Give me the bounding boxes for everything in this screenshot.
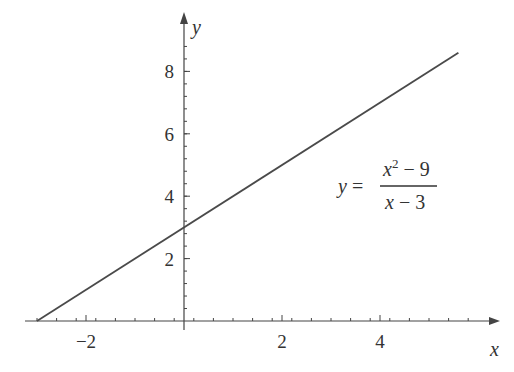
series-line <box>37 53 458 321</box>
y-tick-label: 8 <box>165 61 175 82</box>
x-tick-label: 2 <box>277 331 287 352</box>
y-tick-label: 2 <box>165 249 175 270</box>
y-axis-arrow-icon <box>180 12 188 24</box>
y-tick-label: 6 <box>165 124 175 145</box>
tick-labels: −2242468 <box>76 61 385 352</box>
equation-lhs: y = <box>336 175 363 198</box>
chart-canvas: −2242468 x y y = x2 − 9 x − 3 <box>0 0 514 372</box>
x-tick-label: 4 <box>375 331 385 352</box>
equation-numerator: x2 − 9 <box>382 156 430 180</box>
x-axis-arrow-icon <box>489 317 500 325</box>
y-axis-label: y <box>190 16 201 39</box>
x-axis-label: x <box>489 338 499 360</box>
equation-denominator: x − 3 <box>384 191 425 213</box>
x-tick-label: −2 <box>76 331 96 352</box>
data-line <box>37 53 458 321</box>
equation-annotation: y = x2 − 9 x − 3 <box>336 156 437 213</box>
y-tick-label: 4 <box>165 186 175 207</box>
